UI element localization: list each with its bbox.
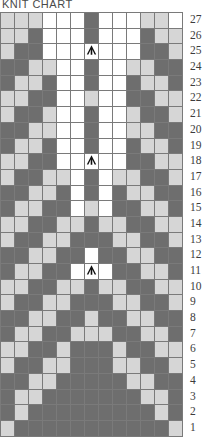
row-number-label: 23 <box>190 75 214 91</box>
stitch-cell <box>71 373 85 389</box>
stitch-cell <box>113 295 127 311</box>
stitch-cell <box>169 75 183 91</box>
stitch-cell <box>71 28 85 44</box>
stitch-cell <box>71 389 85 405</box>
stitch-cell <box>1 44 15 60</box>
stitch-cell <box>43 358 57 374</box>
stitch-cell <box>113 28 127 44</box>
stitch-cell <box>1 185 15 201</box>
stitch-cell <box>43 311 57 327</box>
stitch-cell <box>141 420 155 436</box>
stitch-cell <box>1 60 15 76</box>
stitch-cell <box>127 28 141 44</box>
stitch-cell <box>155 264 169 280</box>
stitch-cell <box>15 232 29 248</box>
stitch-cell <box>155 232 169 248</box>
stitch-cell <box>85 405 99 421</box>
stitch-cell <box>141 295 155 311</box>
stitch-cell <box>57 169 71 185</box>
stitch-cell <box>85 248 99 264</box>
row-number-label: 17 <box>190 169 214 185</box>
stitch-cell <box>29 122 43 138</box>
row-number-label: 3 <box>190 389 214 405</box>
stitch-cell <box>1 311 15 327</box>
stitch-cell <box>29 342 43 358</box>
stitch-cell <box>85 60 99 76</box>
row-number-label: 14 <box>190 216 214 232</box>
stitch-cell <box>85 28 99 44</box>
chart-row <box>1 248 183 264</box>
stitch-cell <box>99 279 113 295</box>
stitch-cell <box>71 13 85 29</box>
chart-row <box>1 232 183 248</box>
stitch-cell <box>43 91 57 107</box>
stitch-cell <box>141 13 155 29</box>
stitch-cell <box>43 154 57 170</box>
stitch-cell <box>43 122 57 138</box>
central-double-decrease-icon <box>85 154 99 170</box>
stitch-cell <box>29 248 43 264</box>
stitch-cell <box>169 122 183 138</box>
stitch-cell <box>1 405 15 421</box>
stitch-cell <box>155 122 169 138</box>
stitch-cell <box>155 91 169 107</box>
stitch-cell <box>113 122 127 138</box>
stitch-cell <box>127 279 141 295</box>
stitch-cell <box>141 44 155 60</box>
stitch-cell <box>57 154 71 170</box>
stitch-cell <box>15 373 29 389</box>
stitch-cell <box>1 216 15 232</box>
chart-row <box>1 44 183 60</box>
stitch-cell <box>71 122 85 138</box>
stitch-cell <box>29 91 43 107</box>
stitch-cell <box>43 75 57 91</box>
stitch-cell <box>29 185 43 201</box>
stitch-cell <box>29 154 43 170</box>
stitch-cell <box>99 358 113 374</box>
stitch-cell <box>1 279 15 295</box>
stitch-cell <box>1 232 15 248</box>
stitch-cell <box>169 311 183 327</box>
stitch-cell <box>71 358 85 374</box>
central-double-decrease-icon <box>85 44 99 60</box>
stitch-cell <box>141 232 155 248</box>
stitch-cell <box>127 60 141 76</box>
stitch-cell <box>155 201 169 217</box>
stitch-cell <box>15 169 29 185</box>
stitch-cell <box>99 107 113 123</box>
stitch-cell <box>169 326 183 342</box>
stitch-cell <box>113 107 127 123</box>
stitch-cell <box>127 389 141 405</box>
chart-row <box>1 295 183 311</box>
stitch-cell <box>15 13 29 29</box>
stitch-cell <box>127 13 141 29</box>
stitch-cell <box>113 185 127 201</box>
stitch-cell <box>99 122 113 138</box>
stitch-cell <box>155 138 169 154</box>
stitch-cell <box>29 358 43 374</box>
stitch-cell <box>99 138 113 154</box>
stitch-cell <box>57 60 71 76</box>
chart-row <box>1 13 183 29</box>
stitch-cell <box>169 91 183 107</box>
stitch-cell <box>113 326 127 342</box>
stitch-cell <box>57 389 71 405</box>
row-number-label: 11 <box>190 263 214 279</box>
stitch-cell <box>99 311 113 327</box>
stitch-cell <box>57 91 71 107</box>
stitch-cell <box>169 138 183 154</box>
stitch-cell <box>141 185 155 201</box>
stitch-cell <box>1 358 15 374</box>
stitch-cell <box>15 201 29 217</box>
row-number-label: 7 <box>190 326 214 342</box>
stitch-cell <box>1 75 15 91</box>
row-number-label: 13 <box>190 232 214 248</box>
row-number-label: 6 <box>190 341 214 357</box>
stitch-cell <box>29 169 43 185</box>
stitch-cell <box>127 169 141 185</box>
stitch-cell <box>57 295 71 311</box>
row-number-axis: 2726252423222120191817161514131211109876… <box>190 12 214 436</box>
stitch-cell <box>29 216 43 232</box>
stitch-cell <box>71 169 85 185</box>
stitch-cell <box>85 326 99 342</box>
